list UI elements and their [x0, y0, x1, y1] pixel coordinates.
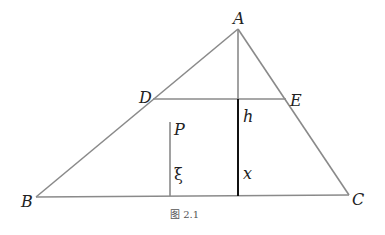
label-c: C — [352, 190, 364, 209]
edge-bc — [36, 195, 349, 197]
figure-caption: 图 2.1 — [170, 209, 199, 220]
label-h: h — [243, 107, 253, 126]
edge-ab — [36, 29, 238, 197]
label-d: D — [138, 88, 152, 107]
label-a: A — [231, 9, 245, 28]
label-p: P — [173, 120, 185, 139]
label-b: B — [20, 192, 33, 211]
label-x: x — [243, 164, 252, 183]
triangle-diagram: A D E B C P h x ξ 图 2.1 — [0, 0, 385, 235]
label-e: E — [289, 91, 302, 110]
edge-ac — [238, 29, 349, 195]
label-xi: ξ — [174, 165, 183, 184]
